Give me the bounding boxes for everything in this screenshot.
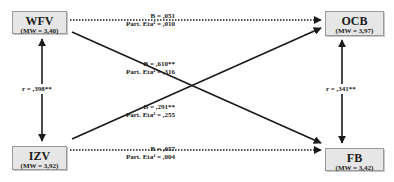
path-label-wfv-fb: B = ,610** Part. Eta² = ,316 <box>126 60 175 76</box>
partial-eta: Part. Eta² = ,004 <box>126 153 175 161</box>
node-mean: (MW = 3,92) <box>13 162 66 171</box>
node-mean: (MW = 3,97) <box>326 27 383 36</box>
b-coefficient: B = ,057 <box>126 145 175 153</box>
path-diagram: WFV (MW = 3,40) OCB (MW = 3,97) IZV (MW … <box>0 0 394 182</box>
node-title: WFV <box>13 15 66 27</box>
b-coefficient: B = ,051 <box>126 12 175 20</box>
path-label-izv-fb: B = ,057 Part. Eta² = ,004 <box>126 145 175 161</box>
node-mean: (MW = 3,42) <box>326 164 383 173</box>
node-wfv: WFV (MW = 3,40) <box>12 11 67 34</box>
node-title: OCB <box>326 15 383 27</box>
node-fb: FB (MW = 3,42) <box>325 148 384 171</box>
correlation-label-ocb-fb: r = ,341** <box>326 84 356 94</box>
node-title: IZV <box>13 150 66 162</box>
b-coefficient: B = ,291** <box>126 103 175 111</box>
path-label-wfv-ocb: B = ,051 Part. Eta² = ,010 <box>126 12 175 28</box>
b-coefficient: B = ,610** <box>126 60 175 68</box>
partial-eta: Part. Eta² = ,010 <box>126 20 175 28</box>
node-ocb: OCB (MW = 3,97) <box>325 11 384 36</box>
path-label-izv-ocb: B = ,291** Part. Eta² = ,255 <box>126 103 175 119</box>
node-title: FB <box>326 152 383 164</box>
node-izv: IZV (MW = 3,92) <box>12 146 67 170</box>
partial-eta: Part. Eta² = ,255 <box>126 111 175 119</box>
path-wfv-fb-solid-arrow <box>72 32 321 143</box>
path-izv-ocb-solid-arrow <box>72 28 321 139</box>
partial-eta: Part. Eta² = ,316 <box>126 68 175 76</box>
correlation-label-wfv-izv: r = ,398** <box>22 84 52 94</box>
node-mean: (MW = 3,40) <box>13 27 66 36</box>
